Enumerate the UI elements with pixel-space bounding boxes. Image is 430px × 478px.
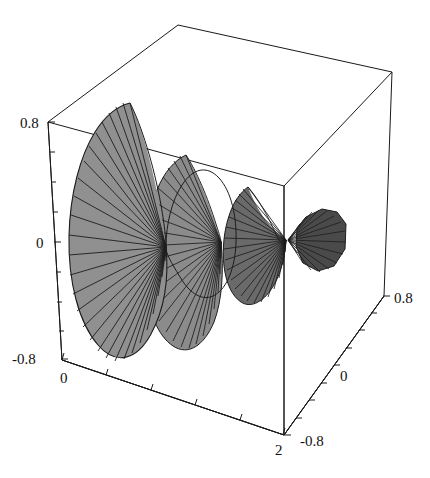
y-axis-ticks bbox=[284, 296, 390, 435]
x-axis bbox=[62, 353, 285, 435]
plot-canvas: 0.8 0 -0.8 0 2 -0.8 0 0.8 bbox=[0, 0, 430, 478]
surface-lobe-4 bbox=[288, 209, 346, 272]
z-axis-label-bottom: -0.8 bbox=[12, 351, 36, 367]
lobe-4-fill bbox=[296, 209, 346, 271]
x-axis-ticks bbox=[62, 353, 285, 434]
y-axis-label-far: 0.8 bbox=[394, 290, 413, 306]
box-right-vertical-edge bbox=[384, 72, 392, 296]
y-axis-label-near: -0.8 bbox=[300, 433, 324, 449]
z-axis-label-mid: 0 bbox=[36, 235, 44, 251]
x-axis-line bbox=[62, 360, 284, 435]
x-axis-label-origin: 0 bbox=[60, 370, 68, 386]
z-axis-line bbox=[48, 122, 62, 360]
z-axis-ticks bbox=[48, 122, 68, 359]
x-axis-label-end: 2 bbox=[275, 442, 283, 458]
y-axis-label-mid: 0 bbox=[340, 368, 348, 384]
3d-plot-svg: 0.8 0 -0.8 0 2 -0.8 0 0.8 bbox=[0, 0, 430, 478]
z-axis bbox=[48, 122, 68, 360]
y-axis bbox=[284, 296, 390, 435]
z-axis-label-top: 0.8 bbox=[20, 115, 39, 131]
